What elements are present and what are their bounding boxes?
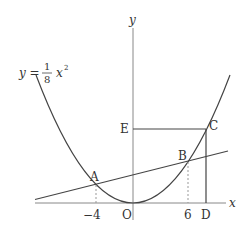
line-AB [35, 151, 228, 200]
equation-rhs: x [56, 66, 63, 80]
point-A-label: A [89, 170, 99, 184]
point-C-label: C [209, 119, 218, 133]
coordinate-diagram: y = 1 8 x 2 y x O −4 6 A B C D E [0, 0, 252, 236]
tick-neg4: −4 [83, 208, 101, 222]
x-axis-label: x [229, 196, 236, 210]
point-D-label: D [201, 208, 211, 222]
y-axis-label: y [128, 13, 136, 27]
equation-denominator: 8 [44, 74, 50, 85]
equation-exponent: 2 [64, 64, 68, 72]
equation-lhs: y = [18, 66, 40, 80]
point-B-label: B [178, 149, 187, 163]
point-E-label: E [120, 122, 129, 136]
origin-label: O [122, 208, 132, 222]
tick-6: 6 [184, 208, 192, 222]
equation-numerator: 1 [44, 61, 50, 72]
